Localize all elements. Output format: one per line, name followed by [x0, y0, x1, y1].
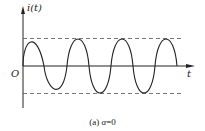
caption-suffix: =0	[106, 117, 116, 127]
figure-caption: (a) α=0	[0, 117, 205, 127]
y-axis-arrow-icon	[21, 6, 25, 14]
caption-prefix: (a)	[89, 117, 101, 127]
y-axis-label: i(t)	[27, 3, 42, 13]
origin-label: O	[11, 69, 19, 79]
t-axis-label: t	[187, 69, 191, 79]
waveform-diagram	[0, 0, 205, 131]
